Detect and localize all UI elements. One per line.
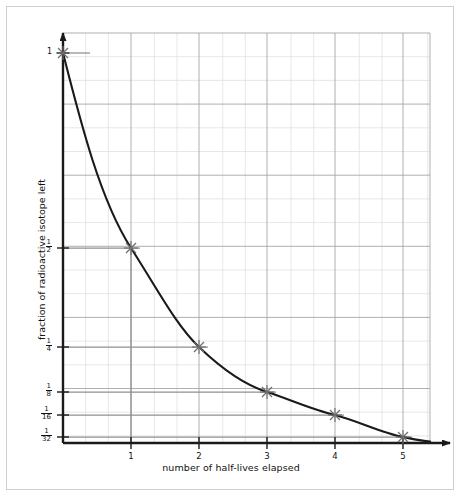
x-tick-label-3: 3 [257, 451, 277, 461]
x-tick-label-1: 1 [121, 451, 141, 461]
data-point-marker-4 [328, 408, 342, 422]
x-tick-label-4: 4 [325, 451, 345, 461]
chart-axes [63, 33, 450, 443]
y-tick-label-1: 1 [28, 47, 52, 56]
data-point-marker-0 [56, 46, 70, 60]
x-axis-title: number of half-lives elapsed [0, 462, 462, 473]
y-tick-label-1-4: 1 4 [28, 338, 52, 353]
x-tick-label-5: 5 [393, 451, 413, 461]
exponential-decay-curve [63, 53, 430, 442]
y-axis-title: fraction of radioactive isotope left [36, 179, 47, 340]
data-point-marker-3 [260, 385, 274, 399]
x-tick-label-2: 2 [189, 451, 209, 461]
half-life-decay-chart [0, 0, 462, 498]
data-point-markers [56, 46, 410, 444]
data-point-marker-5 [396, 430, 410, 444]
grid-minor-lines [63, 33, 430, 443]
data-point-marker-2 [192, 340, 206, 354]
y-tick-label-1-16: 1 16 [28, 406, 52, 421]
grid-major-lines [63, 33, 430, 443]
y-tick-label-1-8: 1 8 [28, 383, 52, 398]
y-tick-label-1-32: 1 32 [28, 428, 52, 443]
data-point-marker-1 [124, 241, 138, 255]
chart-page: 1 1 2 1 4 1 8 1 16 1 32 1 2 3 4 5 [0, 0, 462, 498]
